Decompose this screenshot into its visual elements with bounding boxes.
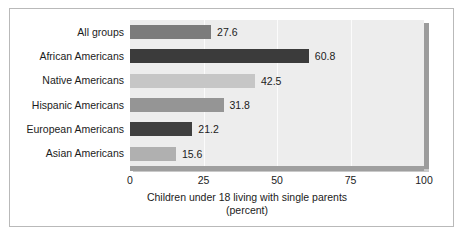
bar-asian-americans	[130, 147, 176, 161]
figure-frame: All groups African Americans Native Amer…	[9, 8, 454, 227]
bar-row: 27.6	[130, 25, 424, 39]
bar-row: 60.8	[130, 49, 424, 63]
bar-value-label: 31.8	[230, 99, 250, 111]
x-tick-label: 25	[198, 174, 210, 186]
category-axis-labels: All groups African Americans Native Amer…	[14, 20, 128, 166]
bar-value-label: 27.6	[217, 26, 237, 38]
bar-native-americans	[130, 74, 255, 88]
bar-row: 15.6	[130, 147, 424, 161]
x-tick-label: 0	[127, 174, 133, 186]
bar-hispanic-americans	[130, 98, 224, 112]
bar-row: 31.8	[130, 98, 424, 112]
category-label: Hispanic Americans	[14, 100, 128, 111]
bar-rows: 27.6 60.8 42.5 31.8 21.2	[130, 20, 424, 166]
bar-value-label: 21.2	[198, 123, 218, 135]
x-tick-label: 50	[271, 174, 283, 186]
x-axis-title-line1: Children under 18 living with single par…	[147, 191, 347, 203]
bar-row: 42.5	[130, 74, 424, 88]
x-axis-title-line2: (percent)	[70, 204, 424, 217]
bar-chart: All groups African Americans Native Amer…	[10, 9, 453, 226]
bar-value-label: 15.6	[182, 148, 202, 160]
category-label: African Americans	[14, 51, 128, 62]
category-label: All groups	[14, 27, 128, 38]
bar-european-americans	[130, 122, 192, 136]
x-tick-label: 100	[415, 174, 433, 186]
plot-area: 27.6 60.8 42.5 31.8 21.2	[130, 20, 424, 166]
bar-all-groups	[130, 25, 211, 39]
bar-value-label: 60.8	[315, 50, 335, 62]
x-axis-tick-labels: 0 25 50 75 100	[130, 174, 424, 188]
x-axis-title: Children under 18 living with single par…	[70, 191, 424, 217]
bar-african-americans	[130, 49, 309, 63]
x-tick-label: 75	[345, 174, 357, 186]
bar-row: 21.2	[130, 122, 424, 136]
category-label: European Americans	[14, 124, 128, 135]
category-label: Asian Americans	[14, 148, 128, 159]
plot-right-edge	[424, 23, 429, 169]
x-axis-bar	[130, 166, 424, 171]
category-label: Native Americans	[14, 75, 128, 86]
bar-value-label: 42.5	[261, 75, 281, 87]
